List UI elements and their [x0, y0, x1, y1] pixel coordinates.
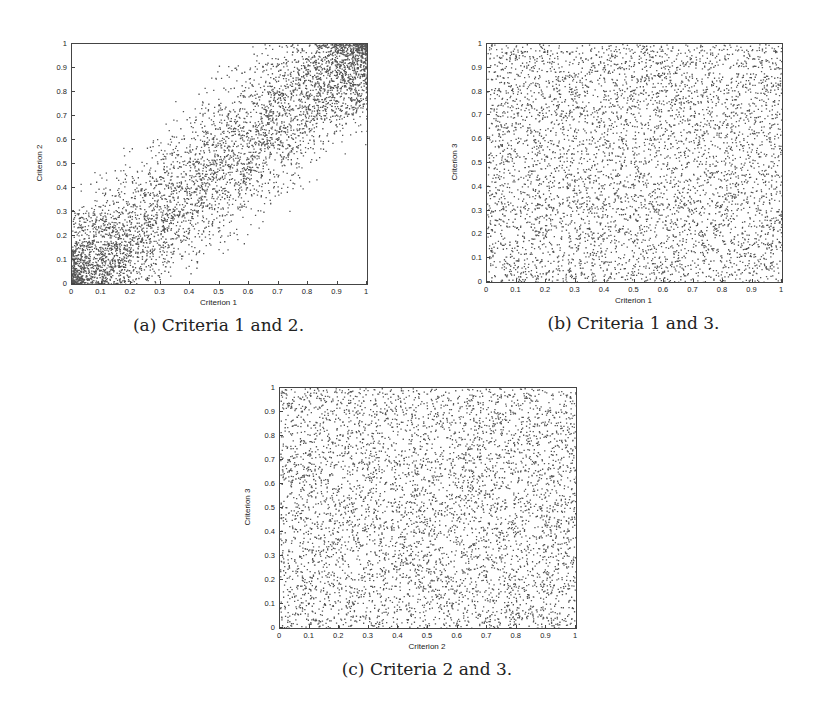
y-tick-mark: [487, 43, 490, 44]
y-tick-mark: [72, 91, 75, 92]
x-tick-label: 0.6: [451, 631, 461, 640]
x-tick-label: 0.3: [363, 631, 373, 640]
y-tick-label: 0: [47, 279, 67, 288]
y-tick-mark: [487, 67, 490, 68]
x-tick-label: 0.4: [599, 285, 609, 294]
x-tick-mark: [101, 281, 102, 284]
y-tick-mark: [280, 531, 283, 532]
y-tick-mark: [487, 257, 490, 258]
x-tick-mark: [545, 625, 546, 628]
y-tick-mark: [72, 67, 75, 68]
y-tick-mark: [72, 163, 75, 164]
x-tick-label: 0.7: [272, 287, 282, 296]
y-tick-mark: [487, 233, 490, 234]
x-tick-label: 0.8: [511, 631, 521, 640]
y-tick-label: 0.4: [255, 527, 275, 536]
y-tick-mark: [487, 186, 490, 187]
y-tick-mark: [72, 235, 75, 236]
y-tick-label: 0.1: [255, 599, 275, 608]
y-tick-label: 0.1: [462, 253, 482, 262]
x-tick-label: 0.1: [303, 631, 313, 640]
figure-caption: (b) Criteria 1 and 3.: [548, 313, 720, 333]
x-tick-mark: [309, 625, 310, 628]
x-tick-label: 0.8: [717, 285, 727, 294]
y-tick-label: 0.8: [462, 86, 482, 95]
x-tick-label: 0.2: [333, 631, 343, 640]
x-tick-label: 0: [484, 285, 488, 294]
x-tick-label: 0.4: [392, 631, 402, 640]
x-tick-mark: [189, 281, 190, 284]
x-tick-label: 0.9: [331, 287, 341, 296]
x-tick-label: 0.6: [243, 287, 253, 296]
y-tick-mark: [487, 210, 490, 211]
scatter-points: [280, 388, 576, 628]
plot-area: [486, 43, 783, 283]
x-tick-label: 0.9: [746, 285, 756, 294]
x-tick-mark: [604, 279, 605, 282]
y-tick-mark: [280, 411, 283, 412]
y-tick-mark: [72, 115, 75, 116]
y-tick-label: 0.6: [462, 134, 482, 143]
x-tick-label: 0.7: [481, 631, 491, 640]
x-tick-mark: [781, 279, 782, 282]
x-tick-label: 0.4: [184, 287, 194, 296]
y-tick-mark: [280, 387, 283, 388]
y-tick-label: 1: [255, 383, 275, 392]
y-tick-label: 0.6: [255, 479, 275, 488]
y-tick-label: 0.5: [47, 159, 67, 168]
x-tick-mark: [752, 279, 753, 282]
y-tick-label: 0.5: [462, 158, 482, 167]
x-tick-label: 0.9: [540, 631, 550, 640]
y-tick-label: 0.7: [462, 110, 482, 119]
x-tick-mark: [278, 281, 279, 284]
x-tick-mark: [337, 281, 338, 284]
x-tick-mark: [338, 625, 339, 628]
x-tick-label: 0.5: [628, 285, 638, 294]
x-tick-label: 0.5: [422, 631, 432, 640]
y-tick-label: 0.9: [462, 62, 482, 71]
y-tick-mark: [487, 138, 490, 139]
x-tick-label: 0.1: [95, 287, 105, 296]
y-tick-label: 0.7: [47, 111, 67, 120]
y-tick-label: 0.2: [462, 229, 482, 238]
x-tick-mark: [693, 279, 694, 282]
y-tick-mark: [280, 459, 283, 460]
y-tick-label: 0.8: [255, 431, 275, 440]
y-tick-label: 0.9: [255, 407, 275, 416]
y-tick-label: 0.5: [255, 503, 275, 512]
x-tick-label: 0: [69, 287, 73, 296]
y-tick-label: 0.3: [462, 205, 482, 214]
x-tick-label: 0.2: [125, 287, 135, 296]
x-tick-mark: [368, 625, 369, 628]
x-tick-mark: [575, 279, 576, 282]
figure-caption: (c) Criteria 2 and 3.: [342, 659, 513, 679]
y-tick-mark: [280, 555, 283, 556]
scatter-points: [487, 44, 782, 282]
y-tick-mark: [280, 627, 283, 628]
y-tick-mark: [487, 91, 490, 92]
y-tick-mark: [487, 162, 490, 163]
y-tick-mark: [72, 211, 75, 212]
x-axis-label: Criterion 1: [615, 296, 652, 305]
y-tick-label: 1: [47, 39, 67, 48]
x-axis-label: Criterion 1: [200, 298, 237, 307]
x-tick-mark: [545, 279, 546, 282]
y-tick-mark: [487, 281, 490, 282]
y-tick-mark: [72, 187, 75, 188]
x-tick-label: 0.3: [569, 285, 579, 294]
x-tick-label: 0.5: [213, 287, 223, 296]
x-tick-mark: [130, 281, 131, 284]
y-tick-label: 0.8: [47, 87, 67, 96]
y-tick-label: 0.4: [47, 183, 67, 192]
plot-area: [279, 387, 577, 629]
x-tick-mark: [634, 279, 635, 282]
y-tick-label: 0.4: [462, 181, 482, 190]
y-tick-label: 0.3: [255, 551, 275, 560]
x-tick-label: 0.6: [658, 285, 668, 294]
y-tick-label: 0.6: [47, 135, 67, 144]
x-tick-mark: [722, 279, 723, 282]
x-tick-mark: [663, 279, 664, 282]
x-tick-label: 0.8: [302, 287, 312, 296]
y-tick-label: 0.1: [47, 255, 67, 264]
x-tick-mark: [397, 625, 398, 628]
